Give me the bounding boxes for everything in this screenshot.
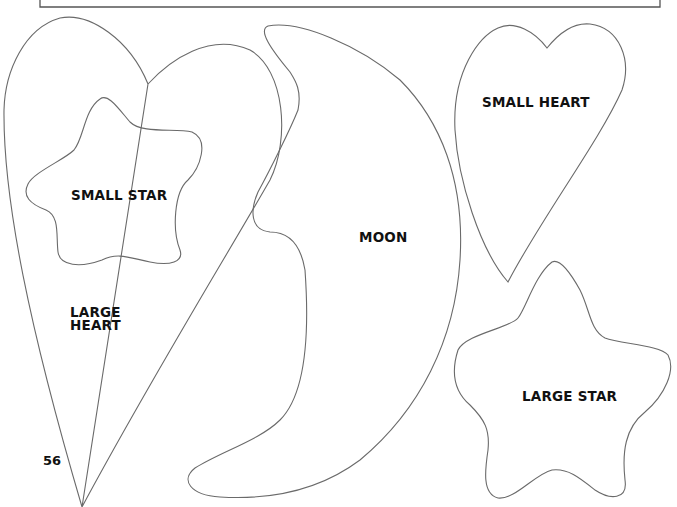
small-heart-label: SMALL HEART (482, 96, 590, 109)
small-star-label: SMALL STAR (71, 189, 167, 202)
small-star-outline (26, 98, 202, 265)
pattern-outlines (0, 0, 677, 507)
page-number: 56 (43, 453, 61, 468)
large-heart-outline (4, 17, 282, 507)
large-star-outline (454, 261, 670, 498)
moon-outline (188, 25, 461, 497)
small-heart-outline (455, 24, 626, 282)
top-box-border (40, 0, 660, 7)
large-star-label: LARGE STAR (522, 390, 617, 403)
large-heart-label-line2: HEART (70, 319, 121, 332)
moon-label: MOON (359, 231, 408, 244)
